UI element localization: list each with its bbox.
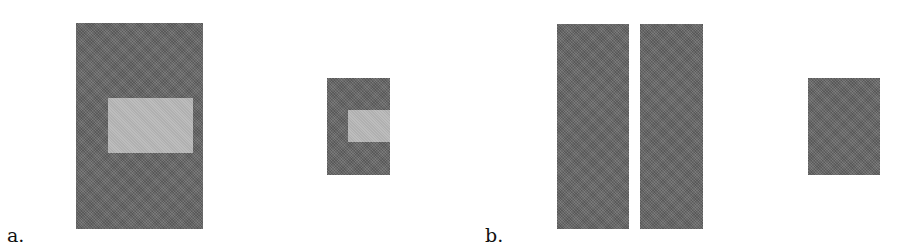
panel-b-tall-dark-rect-right bbox=[640, 24, 703, 229]
panel-a-label: a. bbox=[7, 226, 24, 245]
panel-b-label: b. bbox=[485, 226, 503, 245]
panel-a-large-inner-light-rect bbox=[108, 98, 193, 153]
panel-a-small-inner-light-rect bbox=[348, 110, 390, 142]
panel-b-tall-dark-rect-left bbox=[557, 24, 629, 229]
panel-b-small-dark-rect bbox=[808, 78, 880, 175]
